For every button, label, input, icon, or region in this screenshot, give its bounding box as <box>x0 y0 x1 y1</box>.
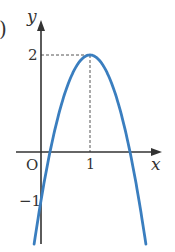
y-tick-2: 2 <box>28 46 38 64</box>
paren-label: ) <box>0 17 7 41</box>
y-axis-label: y <box>26 6 37 26</box>
x-tick-1: 1 <box>86 156 95 172</box>
x-axis-label: x <box>151 154 161 174</box>
origin-label: O <box>26 156 38 174</box>
parabola-graph: ) y x O 1 2 −1 <box>0 0 175 252</box>
y-tick-neg-1: −1 <box>19 192 41 210</box>
y-axis-arrow-icon <box>37 20 45 31</box>
parabola-curve <box>34 55 146 244</box>
